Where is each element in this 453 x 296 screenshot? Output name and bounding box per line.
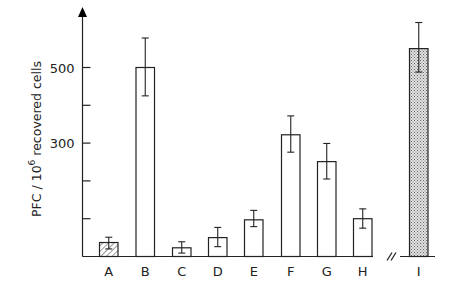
bar-f xyxy=(282,116,301,257)
category-labels: ABCDEFGHI xyxy=(104,264,420,279)
category-label-b: B xyxy=(141,264,150,279)
bar-i xyxy=(410,23,429,257)
category-label-e: E xyxy=(250,264,258,279)
bar-a xyxy=(100,237,119,256)
axis-break-icon xyxy=(387,253,396,261)
y-tick-label: 300 xyxy=(50,136,75,151)
category-label-c: C xyxy=(177,264,186,279)
y-axis: 300500 xyxy=(50,7,91,257)
category-label-d: D xyxy=(213,264,223,279)
category-label-a: A xyxy=(104,264,113,279)
y-axis-title: PFC / 106 recovered cells xyxy=(27,61,44,217)
bar-g xyxy=(318,143,337,256)
category-label-h: H xyxy=(358,264,368,279)
bar-c xyxy=(173,242,192,257)
bar-h xyxy=(354,209,373,257)
bar-chart: 300500 ABCDEFGHI PFC / 106 recovered cel… xyxy=(0,0,453,296)
arrow-up-icon xyxy=(78,7,87,17)
category-label-f: F xyxy=(287,264,294,279)
category-label-g: G xyxy=(322,264,332,279)
bar-e xyxy=(245,210,264,256)
bars xyxy=(100,23,429,257)
category-label-i: I xyxy=(417,264,421,279)
y-tick-label: 500 xyxy=(50,61,75,76)
bar-d xyxy=(209,227,228,256)
bar-b xyxy=(136,38,155,256)
